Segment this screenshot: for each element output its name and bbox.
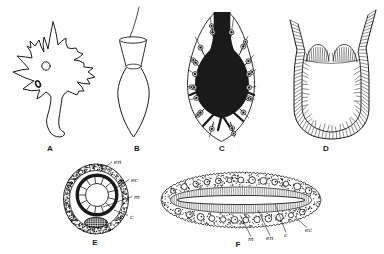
annotation-c: c xyxy=(130,213,134,220)
collar-base xyxy=(126,64,141,69)
central-cavity-slit xyxy=(177,196,305,205)
annotation-en2: en xyxy=(266,234,274,241)
nucleus xyxy=(42,62,50,70)
panel-label-e: E xyxy=(92,238,98,247)
panel-label-f: F xyxy=(236,240,241,249)
panel-e-cross-section: en ec m c E xyxy=(63,158,140,247)
cavity-cilia xyxy=(302,62,361,132)
outer-wall xyxy=(290,10,376,139)
panel-label-b: B xyxy=(134,144,140,153)
flagellum xyxy=(130,7,139,37)
panel-label-d: D xyxy=(323,144,329,153)
annotation-en: en xyxy=(114,158,122,165)
panel-f-longitudinal-section: m en c ec F xyxy=(161,172,321,249)
figure-canvas: A B C D xyxy=(0,0,384,254)
annotation-c2: c xyxy=(284,231,288,238)
panel-b-collared-flagellate: B xyxy=(118,7,149,153)
annotation-m2: m xyxy=(248,235,254,242)
panel-a-amoeboid-cell: A xyxy=(13,22,95,153)
panel-c-flask-section: C xyxy=(188,12,257,153)
collar-right-wall xyxy=(141,41,147,66)
wall-hatching xyxy=(290,10,376,139)
panel-d-vase-section: D xyxy=(290,10,376,153)
annotation-m: m xyxy=(134,193,140,200)
food-vacuole xyxy=(35,80,42,88)
cell-body-outline xyxy=(118,68,149,137)
collar-left-wall xyxy=(120,41,127,66)
annotation-ec2: ec xyxy=(305,226,313,233)
inner-wall xyxy=(298,15,368,132)
papilla-striations xyxy=(306,47,355,62)
collar-rim xyxy=(120,37,147,43)
central-cavity xyxy=(86,184,109,207)
panel-label-c: C xyxy=(219,144,225,153)
panel-label-a: A xyxy=(47,144,53,153)
annotation-ec: ec xyxy=(131,176,139,183)
amoeba-body-outline xyxy=(13,22,95,137)
zoology-diagram: A B C D xyxy=(0,0,384,254)
osculum-papilla-right xyxy=(333,45,357,63)
